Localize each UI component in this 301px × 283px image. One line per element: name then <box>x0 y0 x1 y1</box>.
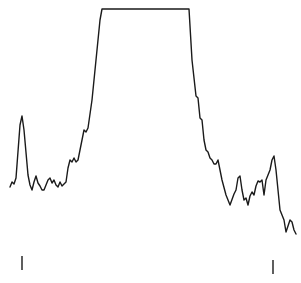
signal-trace <box>10 9 296 234</box>
line-plot <box>0 0 301 283</box>
marker-ticks <box>22 256 273 274</box>
